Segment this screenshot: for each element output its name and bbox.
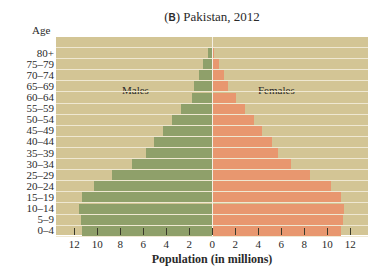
title-text: Pakistan, 2012 [183,9,260,24]
x-tick [327,228,328,235]
x-tick [120,228,121,235]
male-bar [154,137,213,147]
female-bar [213,104,245,114]
y-axis-title: Age [32,24,50,36]
x-tick [235,228,236,235]
male-bar [199,70,213,80]
x-tick [281,228,282,235]
x-tick-label: 12 [340,238,360,250]
male-bar [181,104,212,114]
x-tick-label: 4 [248,238,268,250]
female-bar [213,93,236,103]
x-tick-label: 6 [133,238,153,250]
x-tick [97,228,98,235]
male-bar [163,126,212,136]
x-tick-label: 6 [271,238,291,250]
female-bar [213,170,310,180]
x-tick [258,228,259,235]
male-bar [82,192,212,202]
x-axis-title: Population (in millions) [0,252,382,267]
legend-females: Females [258,84,295,96]
female-bar [213,70,223,80]
female-bar [213,204,344,214]
female-bar [213,81,228,91]
female-bar [213,48,214,58]
chart-title: (B) Pakistan, 2012 [0,9,382,25]
male-bar [79,204,212,214]
male-bar [194,81,212,91]
age-group-label: 80+ [37,48,54,59]
center-axis-line [212,37,213,235]
female-bar [213,215,343,225]
female-bar [213,181,330,191]
age-group-label: 40–44 [27,136,55,147]
title-prefix: B [168,12,175,23]
x-tick-label: 2 [225,238,245,250]
female-bar [213,192,341,202]
x-tick [212,228,213,235]
x-tick [74,228,75,235]
x-tick [166,228,167,235]
x-tick-label: 10 [317,238,337,250]
legend-males: Males [122,84,149,96]
age-group-label: 35–39 [27,148,55,159]
x-tick-label: 8 [110,238,130,250]
female-bar [213,137,272,147]
male-bar [146,148,213,158]
male-bar [192,93,213,103]
x-tick-label: 2 [179,238,199,250]
male-bar [132,159,213,169]
x-tick-label: 4 [156,238,176,250]
row-separator [56,236,368,237]
female-bar [213,226,341,236]
female-bar [213,115,253,125]
female-bar [213,159,291,169]
age-group-label: 0–4 [38,225,55,236]
male-bar [203,59,212,69]
x-tick-label: 0 [202,238,222,250]
female-bar [213,59,219,69]
male-bar [81,215,212,225]
x-tick [304,228,305,235]
plot-area: Males Females [56,37,368,235]
age-group-label: 30–34 [27,159,55,170]
x-tick [189,228,190,235]
x-tick [143,228,144,235]
x-tick [350,228,351,235]
male-bar [172,115,212,125]
male-bar [94,181,212,191]
x-tick-label: 8 [294,238,314,250]
x-tick-label: 10 [87,238,107,250]
x-tick-label: 12 [64,238,84,250]
female-bar [213,126,261,136]
female-bar [213,148,277,158]
male-bar [112,170,212,180]
male-bar [82,226,212,236]
